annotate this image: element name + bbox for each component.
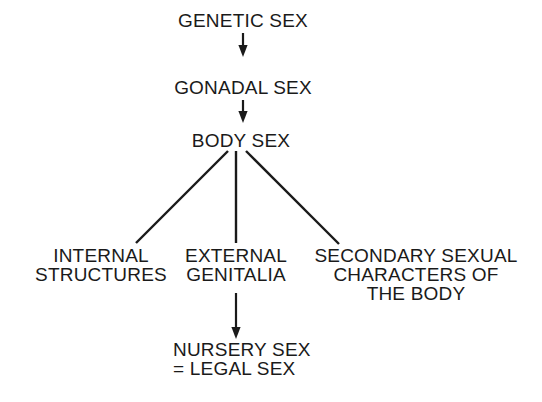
node-internal-structures-line-2: STRUCTURES [35,264,167,285]
node-nursery-sex-line-1: NURSERY SEX [173,339,311,360]
diagram-canvas: GENETIC SEX GONADAL SEX BODY SEX INTERNA… [0,0,542,402]
node-external-genitalia-line-1: EXTERNAL [185,245,287,266]
node-external-genitalia: EXTERNAL GENITALIA [185,245,287,285]
node-gonadal-sex: GONADAL SEX [174,77,312,98]
node-body-sex-line-1: BODY SEX [192,130,291,151]
node-body-sex: BODY SEX [192,130,291,151]
node-secondary-sexual-characters-line-2: CHARACTERS OF [333,264,498,285]
node-internal-structures: INTERNAL STRUCTURES [35,245,167,285]
node-genetic-sex: GENETIC SEX [178,10,308,31]
node-secondary-sexual-characters: SECONDARY SEXUAL CHARACTERS OF THE BODY [314,245,517,304]
edge-body-to-secondary [246,151,339,244]
edge-genetic-to-gonadal [238,33,247,57]
flowchart-svg: GENETIC SEX GONADAL SEX BODY SEX INTERNA… [0,0,542,402]
edge-gonadal-to-body [238,100,247,123]
node-secondary-sexual-characters-line-3: THE BODY [367,283,466,304]
node-nursery-sex: NURSERY SEX = LEGAL SEX [173,339,311,379]
node-genetic-sex-line-1: GENETIC SEX [178,10,308,31]
node-gonadal-sex-line-1: GONADAL SEX [174,77,312,98]
edge-body-to-internal [136,151,228,243]
node-nursery-sex-line-2: = LEGAL SEX [173,358,296,379]
node-internal-structures-line-1: INTERNAL [53,245,149,266]
node-external-genitalia-line-2: GENITALIA [186,264,286,285]
edge-external-to-nursery [231,293,240,339]
node-secondary-sexual-characters-line-1: SECONDARY SEXUAL [314,245,517,266]
